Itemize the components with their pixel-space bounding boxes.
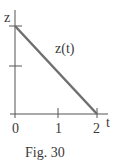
chart-plot (0, 0, 118, 164)
figure-caption: Fig. 30 (25, 146, 65, 160)
z-axis-label: z (4, 11, 10, 25)
t-axis-label: t (106, 116, 110, 130)
x-tick-label-0: 0 (12, 122, 19, 136)
series-label: z(t) (55, 42, 74, 56)
series-line-z (15, 26, 97, 114)
x-tick-label-2: 2 (93, 122, 100, 136)
x-tick-label-1: 1 (55, 122, 62, 136)
